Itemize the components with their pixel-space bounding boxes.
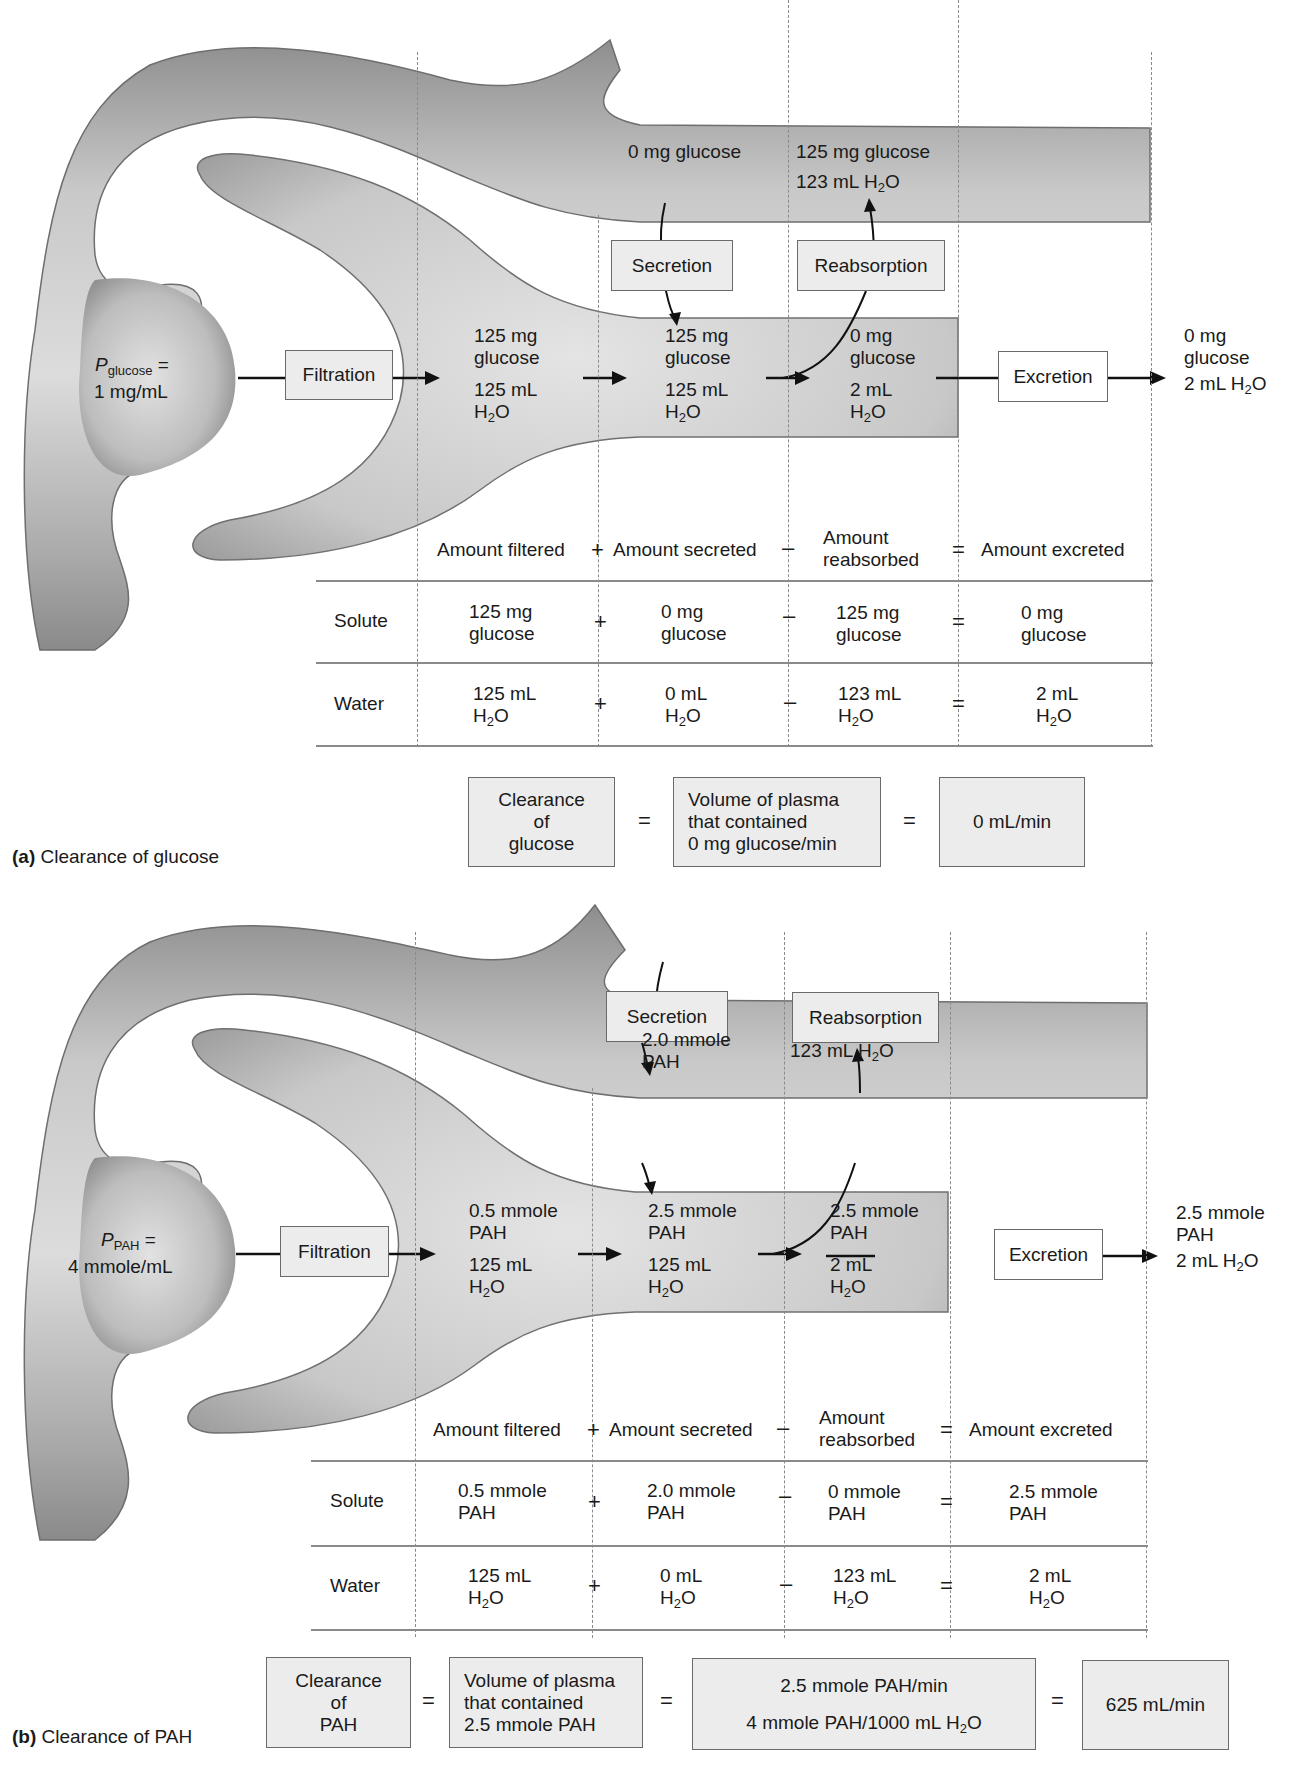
row-label-water: Water xyxy=(330,1575,380,1597)
clearance-result-box: 0 mL/min xyxy=(939,777,1085,867)
header-amount-filtered: Amount filtered xyxy=(433,1419,561,1441)
after-reabsorption-amount: 2.5 mmole PAH 2 mL H2O xyxy=(830,1200,919,1298)
panel-caption: (a) Clearance of glucose xyxy=(12,846,219,868)
nephron-illustration xyxy=(0,0,1313,880)
header-amount-excreted: Amount excreted xyxy=(969,1419,1113,1441)
header-amount-filtered: Amount filtered xyxy=(437,539,565,561)
column-divider xyxy=(1151,52,1152,747)
plasma-concentration-label: Pglucose = xyxy=(95,354,169,376)
minus-operator: – xyxy=(784,689,796,715)
reabsorbed-solute-amount: 125 mg glucose xyxy=(796,141,930,163)
table-rule xyxy=(316,662,1153,664)
table-cell: 2 mLH2O xyxy=(1029,1565,1071,1609)
clearance-term-box: Clearanceofglucose xyxy=(468,777,615,867)
column-divider xyxy=(592,1088,593,1638)
table-cell: 0.5 mmolePAH xyxy=(458,1480,547,1524)
reabsorbed-water-amount: 123 mL H2O xyxy=(796,171,900,193)
clearance-term-box: ClearanceofPAH xyxy=(266,1657,411,1748)
row-label-solute: Solute xyxy=(334,610,388,632)
minus-operator: – xyxy=(783,603,795,629)
plus-operator: + xyxy=(588,1573,601,1599)
table-rule xyxy=(316,745,1153,747)
plus-operator: + xyxy=(587,1417,600,1443)
table-cell: 2 mLH2O xyxy=(1036,683,1078,727)
reabsorption-box: Reabsorption xyxy=(797,240,945,291)
fraction-denominator: 4 mmole PAH/1000 mL H2O xyxy=(746,1712,981,1734)
table-cell: 0 mmolePAH xyxy=(828,1481,901,1525)
table-cell: 125 mLH2O xyxy=(473,683,536,727)
table-cell: 2.5 mmolePAH xyxy=(1009,1481,1098,1525)
table-rule xyxy=(311,1545,1148,1547)
equals-operator: = xyxy=(952,609,965,635)
table-cell: 0 mgglucose xyxy=(1021,602,1087,646)
minus-operator: – xyxy=(777,1415,789,1441)
reabsorbed-water-amount: 123 mL H2O xyxy=(790,1040,894,1062)
excretion-box: Excretion xyxy=(998,351,1108,402)
table-cell: 123 mLH2O xyxy=(833,1565,896,1609)
equals-operator: = xyxy=(940,1489,953,1515)
plus-operator: + xyxy=(591,537,604,563)
plus-operator: + xyxy=(594,609,607,635)
column-divider xyxy=(598,215,599,747)
clearance-fraction-box: 2.5 mmole PAH/min 4 mmole PAH/1000 mL H2… xyxy=(692,1658,1036,1750)
table-cell: 125 mgglucose xyxy=(469,601,535,645)
table-cell: 0 mLH2O xyxy=(660,1565,702,1609)
equals-operator: = xyxy=(638,808,651,834)
header-amount-excreted: Amount excreted xyxy=(981,539,1125,561)
glomerulus-shape xyxy=(79,278,235,476)
secretion-box: Secretion xyxy=(611,240,733,291)
equals-operator: = xyxy=(940,1417,953,1443)
filtration-box: Filtration xyxy=(285,350,393,400)
table-rule xyxy=(311,1629,1148,1631)
volume-plasma-box: Volume of plasmathat contained2.5 mmole … xyxy=(449,1657,643,1748)
column-divider xyxy=(950,932,951,1638)
equals-operator: = xyxy=(903,808,916,834)
column-divider xyxy=(784,932,785,1638)
excretion-box: Excretion xyxy=(994,1229,1103,1280)
clearance-result-box: 625 mL/min xyxy=(1082,1660,1229,1750)
equals-operator: = xyxy=(660,1688,673,1714)
filtration-box: Filtration xyxy=(280,1226,389,1277)
equals-operator: = xyxy=(1051,1688,1064,1714)
header-amount-secreted: Amount secreted xyxy=(609,1419,753,1441)
column-divider xyxy=(1146,932,1147,1638)
minus-operator: – xyxy=(780,1571,792,1597)
fraction-numerator: 2.5 mmole PAH/min xyxy=(780,1675,948,1697)
minus-operator: – xyxy=(779,1483,791,1509)
table-rule xyxy=(316,580,1153,582)
row-label-solute: Solute xyxy=(330,1490,384,1512)
header-amount-reabsorbed: Amount reabsorbed xyxy=(823,527,919,571)
column-divider xyxy=(788,0,789,747)
after-reabsorption-amount: 0 mg glucose 2 mL H2O xyxy=(850,325,916,423)
table-cell: 125 mLH2O xyxy=(468,1565,531,1609)
volume-plasma-box: Volume of plasmathat contained0 mg gluco… xyxy=(673,777,881,867)
table-cell: 123 mLH2O xyxy=(838,683,901,727)
equals-operator: = xyxy=(940,1573,953,1599)
plasma-concentration-value: 1 mg/mL xyxy=(94,381,168,403)
plus-operator: + xyxy=(594,691,607,717)
plus-operator: + xyxy=(588,1489,601,1515)
equals-operator: = xyxy=(952,537,965,563)
filtered-amount: 125 mg glucose 125 mL H2O xyxy=(474,325,540,423)
row-label-water: Water xyxy=(334,693,384,715)
secretion-source-amount: 2.0 mmole PAH xyxy=(642,1029,731,1073)
after-secretion-amount: 125 mg glucose 125 mL H2O xyxy=(665,325,731,423)
filtered-amount: 0.5 mmole PAH 125 mL H2O xyxy=(469,1200,558,1298)
panel-glucose-clearance: Pglucose = 1 mg/mL Filtration Secretion … xyxy=(0,0,1313,880)
plasma-concentration-label: PPAH = xyxy=(101,1229,156,1251)
minus-operator: – xyxy=(782,535,794,561)
excreted-amount: 2.5 mmole PAH 2 mL H2O xyxy=(1176,1202,1265,1272)
table-cell: 0 mgglucose xyxy=(661,601,727,645)
header-amount-reabsorbed: Amount reabsorbed xyxy=(819,1407,915,1451)
table-cell: 125 mgglucose xyxy=(836,602,902,646)
after-secretion-amount: 2.5 mmole PAH 125 mL H2O xyxy=(648,1200,737,1298)
equals-operator: = xyxy=(422,1688,435,1714)
header-amount-secreted: Amount secreted xyxy=(613,539,757,561)
table-cell: 0 mLH2O xyxy=(665,683,707,727)
column-divider xyxy=(415,932,416,1637)
panel-pah-clearance: PPAH = 4 mmole/mL Filtration Secretion R… xyxy=(0,880,1313,1766)
column-divider xyxy=(417,52,418,747)
reabsorption-box: Reabsorption xyxy=(792,992,939,1043)
table-rule xyxy=(311,1460,1148,1462)
equals-operator: = xyxy=(952,691,965,717)
